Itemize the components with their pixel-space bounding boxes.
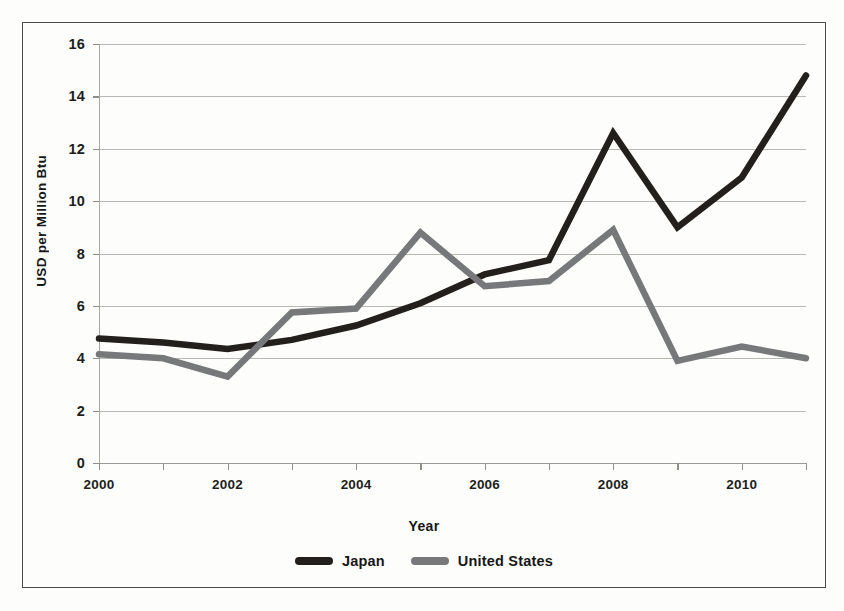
y-axis-tick-label: 10: [23, 194, 85, 209]
x-axis-tick: [549, 463, 550, 470]
x-axis-tick-label: 2004: [341, 477, 372, 492]
y-axis-tick-label: 16: [23, 37, 85, 52]
scanned-page: USD per Million Btu 0246810121416 200020…: [0, 0, 844, 611]
series-layer: [99, 44, 806, 463]
y-axis-title: USD per Million Btu: [34, 155, 60, 287]
x-axis-tick: [420, 463, 421, 470]
x-axis-tick-label: 2002: [212, 477, 243, 492]
y-axis-tick-label: 8: [23, 247, 85, 262]
y-axis-tick-label: 4: [23, 351, 85, 366]
x-axis-tick: [292, 463, 293, 470]
y-axis-tick-label: 2: [23, 404, 85, 419]
x-axis-tick: [613, 463, 614, 470]
legend-label: Japan: [342, 553, 385, 569]
chart-frame: USD per Million Btu 0246810121416 200020…: [22, 22, 826, 588]
x-axis-tick: [677, 463, 678, 470]
legend-entry-japan[interactable]: Japan: [295, 553, 385, 569]
legend-swatch-icon: [411, 557, 449, 565]
x-axis-tick: [163, 463, 164, 470]
x-axis-tick-label: 2010: [726, 477, 757, 492]
legend-swatch-icon: [295, 557, 333, 565]
x-axis-tick: [356, 463, 357, 470]
legend-label: United States: [458, 553, 553, 569]
x-axis-tick-label: 2006: [469, 477, 500, 492]
x-axis-tick: [228, 463, 229, 470]
x-axis-tick: [806, 463, 807, 470]
x-axis-tick-label: 2000: [84, 477, 115, 492]
y-axis-tick-label: 14: [23, 89, 85, 104]
x-axis-tick: [485, 463, 486, 470]
legend-entry-united-states[interactable]: United States: [411, 553, 553, 569]
plot-area: [99, 44, 806, 463]
x-axis-tick: [742, 463, 743, 470]
series-line-japan: [99, 75, 806, 349]
series-line-united-states: [99, 230, 806, 377]
chart-legend: JapanUnited States: [23, 553, 825, 569]
y-axis-tick-label: 12: [23, 142, 85, 157]
y-axis-tick-label: 6: [23, 299, 85, 314]
gridline: [99, 463, 806, 464]
y-axis-tick-label: 0: [23, 456, 85, 471]
x-axis-tick-label: 2008: [598, 477, 629, 492]
x-axis-tick: [99, 463, 100, 470]
x-axis-title: Year: [23, 518, 825, 534]
